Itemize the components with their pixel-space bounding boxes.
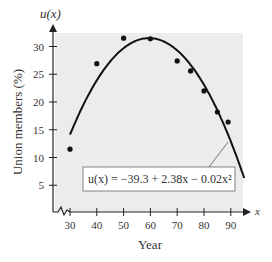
data-point [201,88,206,93]
data-point [188,68,193,73]
svg-text:50: 50 [118,219,130,231]
svg-text:10: 10 [33,152,45,164]
svg-text:60: 60 [145,219,157,231]
data-point [67,147,72,152]
svg-text:70: 70 [172,219,184,231]
chart: 5101520253030405060708090 u(x) = −39.3 +… [0,0,272,262]
equation-label: u(x) = −39.3 + 2.38x − 0.02x² [88,172,232,186]
svg-text:20: 20 [33,96,45,108]
data-point [215,109,220,114]
data-point [175,58,180,63]
svg-text:30: 30 [33,41,45,53]
svg-text:25: 25 [33,68,45,80]
svg-text:5: 5 [39,179,45,191]
y-axis-symbol: u(x) [40,6,61,21]
data-point [94,61,99,66]
data-point [148,36,153,41]
svg-text:80: 80 [199,219,211,231]
x-axis-symbol: x [254,205,260,217]
x-axis-label: Year [138,237,163,252]
svg-text:15: 15 [33,124,45,136]
svg-text:40: 40 [91,219,103,231]
svg-text:90: 90 [225,219,237,231]
y-axis-label: Union members (%) [10,69,25,175]
svg-text:30: 30 [65,219,77,231]
data-point [121,36,126,41]
data-point [226,119,231,124]
